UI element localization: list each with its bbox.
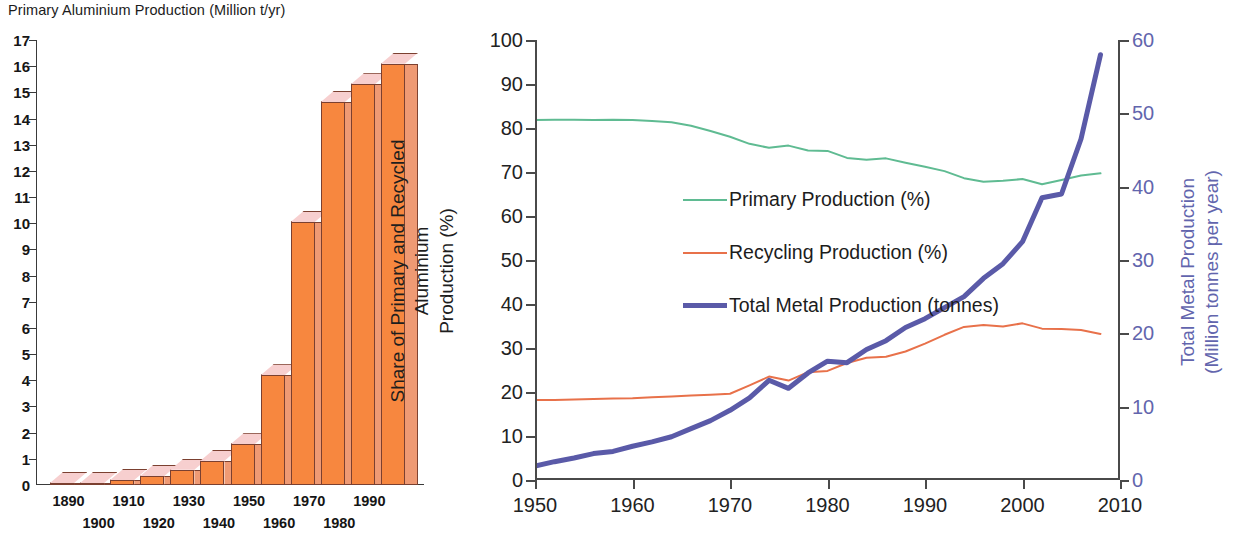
x-tick-mark [535, 480, 537, 489]
bar-x-tick-label: 1920 [143, 515, 175, 531]
legend-item[interactable]: Recycling Production (%) [683, 241, 999, 264]
legend-swatch-icon [683, 199, 727, 201]
bar-y-tick-label: 11 [14, 189, 30, 206]
left-y-tick-label: 50 [501, 249, 523, 272]
bar-x-tick-label: 1890 [52, 493, 84, 509]
bar-y-tick-mark [29, 433, 36, 434]
x-tick-mark [730, 480, 732, 489]
right-y-tick-label: 20 [1132, 322, 1154, 345]
x-tick-label: 1980 [805, 494, 850, 517]
left-y-tick-label: 10 [501, 425, 523, 448]
right-y-tick-mark [1120, 333, 1129, 335]
left-y-tick-mark [526, 216, 535, 218]
bar-item [170, 459, 194, 485]
right-y-tick-label: 50 [1132, 102, 1154, 125]
bar-y-tick-label: 0 [22, 477, 30, 494]
bar-item [80, 472, 104, 485]
left-y-tick-mark [526, 392, 535, 394]
bar-front-face [291, 222, 315, 485]
left-y-tick-label: 40 [501, 293, 523, 316]
bar-y-tick-mark [29, 92, 36, 93]
x-tick-label: 2000 [1000, 494, 1045, 517]
bar-item [321, 91, 345, 485]
legend-swatch-icon [683, 303, 727, 308]
bar-x-tick-label: 1910 [113, 493, 145, 509]
bar-y-tick-mark [29, 354, 36, 355]
bar-y-tick-mark [29, 249, 36, 250]
bar-item [50, 472, 74, 485]
bar-chart-y-axis [36, 40, 37, 485]
bar-top-face [381, 53, 418, 64]
x-tick-label: 1970 [708, 494, 753, 517]
bar-y-tick-mark [29, 328, 36, 329]
left-y-tick-label: 60 [501, 205, 523, 228]
bar-chart-plot-area: 17161514131211109876543210 [36, 40, 424, 485]
bar-y-tick-label: 10 [13, 215, 30, 232]
right-y-tick-label: 40 [1132, 175, 1154, 198]
bar-item [140, 465, 164, 485]
bar-front-face [50, 483, 74, 485]
bar-y-tick-mark [29, 171, 36, 172]
bar-x-tick-label: 1930 [173, 493, 205, 509]
right-y-tick-mark [1120, 40, 1129, 42]
x-tick-label: 1990 [903, 494, 948, 517]
bar-item [291, 211, 315, 485]
left-y-tick-label: 70 [501, 161, 523, 184]
x-tick-mark [633, 480, 635, 489]
left-y-tick-mark [526, 128, 535, 130]
bar-item [261, 364, 285, 485]
legend-label: Total Metal Production (tonnes) [729, 294, 999, 317]
bar-front-face [231, 444, 255, 485]
left-y-tick-label: 0 [512, 469, 523, 492]
legend-swatch-icon [683, 252, 727, 254]
bar-front-face [170, 470, 194, 485]
bar-y-tick-mark [29, 223, 36, 224]
bar-front-face [80, 483, 104, 485]
bar-y-tick-mark [29, 197, 36, 198]
bar-y-tick-label: 16 [13, 58, 30, 75]
line-chart-panel: Share of Primary and Recycled Aluminium … [430, 0, 1257, 542]
series-line [535, 120, 1101, 185]
left-axis-label-line1: Share of Primary and Recycled Aluminium [386, 106, 435, 436]
right-axis-label-line1: Total Metal Production [1176, 122, 1200, 422]
legend-item[interactable]: Primary Production (%) [683, 188, 999, 211]
right-y-tick-label: 10 [1132, 395, 1154, 418]
legend-label: Recycling Production (%) [729, 241, 948, 264]
bar-x-tick-label: 1990 [353, 493, 385, 509]
line-chart-plot-area: 1009080706050403020100 6050403020100 195… [535, 40, 1120, 480]
left-y-tick-mark [526, 172, 535, 174]
bar-y-tick-mark [29, 145, 36, 146]
bar-front-face [140, 476, 164, 485]
bar-y-tick-mark [29, 276, 36, 277]
bar-front-face [321, 102, 345, 485]
right-y-tick-mark [1120, 407, 1129, 409]
bar-y-tick-label: 14 [13, 110, 30, 127]
bar-chart-title: Primary Aluminium Production (Million t/… [8, 2, 285, 18]
bar-front-face [110, 480, 134, 485]
right-y-tick-label: 60 [1132, 29, 1154, 52]
left-y-tick-label: 20 [501, 381, 523, 404]
bar-y-tick-label: 12 [13, 162, 30, 179]
legend-label: Primary Production (%) [729, 188, 931, 211]
bar-y-tick-mark [29, 406, 36, 407]
bar-y-tick-mark [29, 380, 36, 381]
bar-front-face [200, 461, 224, 485]
bar-item [351, 73, 375, 485]
line-chart-left-axis [535, 40, 537, 480]
x-tick-mark [1120, 480, 1122, 489]
bar-y-tick-label: 13 [13, 136, 30, 153]
left-y-tick-mark [526, 304, 535, 306]
bar-chart-panel: Primary Aluminium Production (Million t/… [0, 0, 430, 542]
bar-front-face [351, 84, 375, 485]
bar-item [231, 433, 255, 485]
legend-item[interactable]: Total Metal Production (tonnes) [683, 294, 999, 317]
line-chart-legend: Primary Production (%)Recycling Producti… [683, 188, 999, 317]
x-tick-mark [925, 480, 927, 489]
bar-x-tick-label: 1900 [82, 515, 114, 531]
bar-x-tick-label: 1940 [203, 515, 235, 531]
bar-y-tick-mark [29, 302, 36, 303]
bar-y-tick-label: 15 [13, 84, 30, 101]
right-y-tick-mark [1120, 113, 1129, 115]
bar-y-tick-mark [29, 66, 36, 67]
x-tick-mark [1023, 480, 1025, 489]
